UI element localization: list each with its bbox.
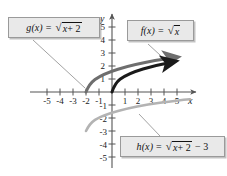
x-tick-label: -2: [82, 96, 90, 106]
radical-icon-h: √ x+ 2: [166, 140, 192, 153]
y-tick-label: -4: [100, 140, 108, 150]
y-tick-label: -5: [100, 153, 108, 163]
callout-f-fn: f(x): [141, 25, 155, 36]
y-tick-label: 3: [101, 48, 106, 58]
callout-f-eq: =: [158, 25, 164, 36]
y-tick-label: -3: [100, 127, 108, 137]
callout-h-radicand-rest: + 2: [178, 142, 191, 153]
radical-icon-g: √ x+ 2: [56, 21, 82, 34]
callout-g-radicand: x+ 2: [62, 22, 82, 34]
x-tick-label: -4: [56, 96, 64, 106]
radical-sign-f: √: [168, 25, 174, 38]
callout-g-fn: g(x): [26, 22, 43, 33]
curve-f: [112, 62, 174, 92]
callout-f-radicand: x: [174, 25, 181, 37]
x-tick-label: -3: [69, 96, 77, 106]
x-tick-label: 1: [123, 96, 128, 106]
radical-sign-h: √: [166, 141, 172, 154]
callout-g-eq: =: [46, 22, 52, 33]
y-tick-label: 4: [101, 35, 106, 45]
leader-line-g: [33, 40, 85, 88]
callout-f-radicand-var: x: [175, 26, 180, 37]
callout-h-fn: h(x): [137, 141, 154, 152]
y-tick-label: 2: [101, 61, 106, 71]
callout-g-text: g(x) = √ x+ 2: [26, 21, 81, 34]
radical-sign-g: √: [56, 22, 62, 35]
callout-h-radicand: x+ 2: [172, 141, 192, 153]
callout-f-text: f(x) = √ x: [141, 24, 181, 37]
radical-icon-f: √ x: [168, 24, 181, 37]
leader-line-h: [139, 114, 160, 136]
callout-h-text: h(x) = √ x+ 2 − 3: [137, 140, 209, 153]
callout-f[interactable]: f(x) = √ x: [127, 20, 194, 41]
figure-canvas: -5 -4 -3 -2 -1 1 2 3 4 5 5 4 3 2 1 -1 -2…: [0, 0, 227, 176]
x-tick-label: 2: [136, 96, 141, 106]
callout-h-eq: =: [156, 141, 162, 152]
callout-g-radicand-rest: + 2: [67, 23, 80, 34]
x-tick-label: -5: [43, 96, 51, 106]
callout-h[interactable]: h(x) = √ x+ 2 − 3: [120, 136, 225, 157]
callout-g[interactable]: g(x) = √ x+ 2: [8, 17, 100, 38]
y-tick-label: -1: [100, 101, 108, 111]
callout-h-tail: − 3: [195, 141, 208, 152]
